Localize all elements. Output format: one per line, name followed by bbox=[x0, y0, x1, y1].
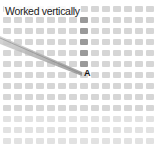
thread-line bbox=[0, 0, 157, 145]
diagram-title: Worked vertically bbox=[4, 5, 81, 17]
point-label-a: A bbox=[84, 68, 91, 78]
stitch-diagram: Worked vertically A bbox=[0, 0, 157, 145]
